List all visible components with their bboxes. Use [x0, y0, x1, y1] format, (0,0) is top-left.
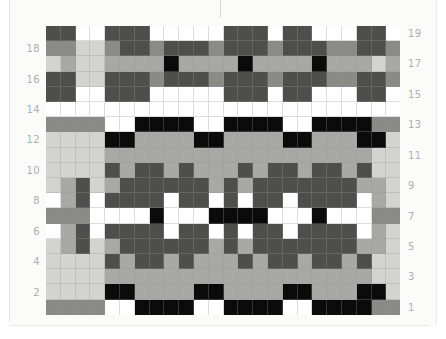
pattern-cell[interactable] [372, 284, 387, 299]
pattern-cell[interactable] [76, 300, 91, 315]
pattern-cell[interactable] [268, 72, 283, 87]
pattern-cell[interactable] [179, 269, 194, 284]
pattern-cell[interactable] [209, 239, 224, 254]
pattern-cell[interactable] [120, 254, 135, 269]
pattern-cell[interactable] [268, 178, 283, 193]
pattern-cell[interactable] [135, 208, 150, 223]
pattern-cell[interactable] [105, 193, 120, 208]
pattern-cell[interactable] [224, 254, 239, 269]
pattern-cell[interactable] [342, 269, 357, 284]
pattern-cell[interactable] [298, 284, 313, 299]
pattern-cell[interactable] [209, 72, 224, 87]
pattern-cell[interactable] [386, 178, 400, 193]
pattern-cell[interactable] [327, 239, 342, 254]
pattern-cell[interactable] [194, 239, 209, 254]
pattern-cell[interactable] [253, 132, 268, 147]
pattern-cell[interactable] [179, 72, 194, 87]
pattern-cell[interactable] [105, 87, 120, 102]
pattern-cell[interactable] [209, 41, 224, 56]
pattern-cell[interactable] [386, 193, 400, 208]
pattern-cell[interactable] [194, 163, 209, 178]
pattern-cell[interactable] [238, 56, 253, 71]
pattern-cell[interactable] [179, 239, 194, 254]
pattern-cell[interactable] [164, 224, 179, 239]
pattern-cell[interactable] [253, 41, 268, 56]
pattern-cell[interactable] [90, 87, 105, 102]
pattern-cell[interactable] [150, 87, 165, 102]
pattern-cell[interactable] [253, 72, 268, 87]
pattern-cell[interactable] [46, 300, 61, 315]
pattern-cell[interactable] [224, 239, 239, 254]
pattern-cell[interactable] [298, 26, 313, 41]
pattern-cell[interactable] [298, 254, 313, 269]
pattern-cell[interactable] [327, 193, 342, 208]
pattern-cell[interactable] [342, 72, 357, 87]
pattern-cell[interactable] [150, 117, 165, 132]
pattern-grid[interactable] [46, 26, 400, 315]
pattern-cell[interactable] [61, 300, 76, 315]
pattern-cell[interactable] [164, 284, 179, 299]
pattern-cell[interactable] [283, 193, 298, 208]
pattern-cell[interactable] [357, 41, 372, 56]
pattern-cell[interactable] [312, 300, 327, 315]
pattern-cell[interactable] [224, 269, 239, 284]
pattern-cell[interactable] [164, 193, 179, 208]
pattern-cell[interactable] [238, 72, 253, 87]
pattern-cell[interactable] [105, 163, 120, 178]
pattern-cell[interactable] [372, 193, 387, 208]
pattern-cell[interactable] [298, 41, 313, 56]
pattern-cell[interactable] [209, 224, 224, 239]
pattern-cell[interactable] [342, 87, 357, 102]
pattern-cell[interactable] [120, 72, 135, 87]
pattern-cell[interactable] [342, 254, 357, 269]
pattern-cell[interactable] [150, 239, 165, 254]
pattern-cell[interactable] [46, 102, 61, 117]
pattern-cell[interactable] [283, 284, 298, 299]
pattern-cell[interactable] [150, 56, 165, 71]
pattern-cell[interactable] [372, 56, 387, 71]
pattern-cell[interactable] [150, 148, 165, 163]
pattern-cell[interactable] [194, 254, 209, 269]
pattern-cell[interactable] [105, 300, 120, 315]
pattern-cell[interactable] [372, 117, 387, 132]
pattern-cell[interactable] [194, 284, 209, 299]
pattern-cell[interactable] [135, 87, 150, 102]
pattern-cell[interactable] [327, 41, 342, 56]
pattern-cell[interactable] [105, 224, 120, 239]
pattern-cell[interactable] [46, 193, 61, 208]
pattern-cell[interactable] [327, 163, 342, 178]
pattern-cell[interactable] [357, 26, 372, 41]
pattern-cell[interactable] [342, 26, 357, 41]
pattern-cell[interactable] [372, 269, 387, 284]
pattern-cell[interactable] [327, 56, 342, 71]
pattern-cell[interactable] [46, 117, 61, 132]
pattern-cell[interactable] [61, 87, 76, 102]
pattern-cell[interactable] [46, 56, 61, 71]
pattern-cell[interactable] [179, 132, 194, 147]
pattern-cell[interactable] [179, 56, 194, 71]
pattern-cell[interactable] [238, 41, 253, 56]
pattern-cell[interactable] [164, 254, 179, 269]
pattern-cell[interactable] [224, 284, 239, 299]
pattern-cell[interactable] [386, 254, 400, 269]
pattern-cell[interactable] [283, 117, 298, 132]
pattern-cell[interactable] [90, 269, 105, 284]
pattern-cell[interactable] [164, 26, 179, 41]
pattern-cell[interactable] [164, 239, 179, 254]
pattern-cell[interactable] [357, 300, 372, 315]
pattern-cell[interactable] [386, 132, 400, 147]
pattern-cell[interactable] [105, 41, 120, 56]
pattern-cell[interactable] [105, 284, 120, 299]
pattern-cell[interactable] [224, 163, 239, 178]
pattern-cell[interactable] [179, 300, 194, 315]
pattern-cell[interactable] [105, 148, 120, 163]
pattern-cell[interactable] [238, 269, 253, 284]
pattern-cell[interactable] [164, 178, 179, 193]
pattern-cell[interactable] [342, 56, 357, 71]
pattern-cell[interactable] [90, 239, 105, 254]
pattern-cell[interactable] [253, 208, 268, 223]
pattern-cell[interactable] [90, 148, 105, 163]
pattern-cell[interactable] [135, 269, 150, 284]
pattern-cell[interactable] [150, 26, 165, 41]
pattern-cell[interactable] [164, 56, 179, 71]
